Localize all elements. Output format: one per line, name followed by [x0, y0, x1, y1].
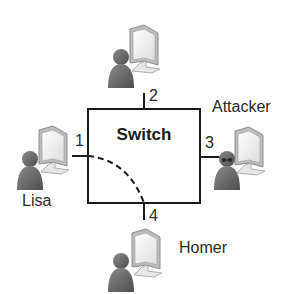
switch-label: Switch [117, 125, 172, 144]
port-1-label: 1 [75, 132, 84, 149]
host-port-2 [108, 25, 160, 88]
switch-box [88, 109, 200, 203]
user-icon [108, 253, 134, 292]
port-3-label: 3 [205, 134, 214, 151]
network-diagram: Switch 1 2 3 4 Lisa Attacker Homer [0, 0, 286, 294]
host-homer: Homer [108, 229, 228, 292]
computer-icon [235, 127, 265, 175]
host-label-homer: Homer [179, 239, 228, 256]
port-4-label: 4 [149, 207, 158, 224]
host-lisa: Lisa [17, 126, 69, 209]
port-2-label: 2 [149, 87, 158, 104]
host-label-lisa: Lisa [22, 192, 51, 209]
host-label-attacker: Attacker [212, 98, 271, 115]
host-attacker: Attacker [212, 98, 271, 190]
computer-icon [39, 126, 69, 174]
computer-icon [130, 25, 160, 73]
computer-icon [132, 229, 162, 277]
